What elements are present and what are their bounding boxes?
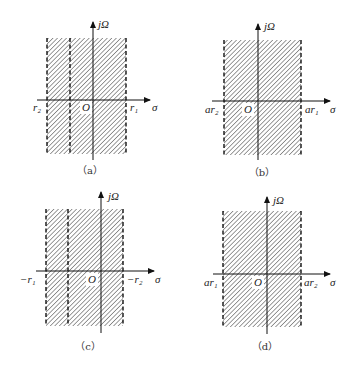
left-boundary-label: ar₁ [204, 276, 218, 288]
panel-d: jΩσOar₁ar₂（d） [204, 194, 336, 352]
panel-caption: （b） [249, 167, 275, 178]
panel-c: jΩσO−r₁−r₂（c） [20, 190, 161, 352]
origin-label: O [82, 101, 90, 113]
panel-caption: （a） [77, 165, 103, 176]
jomega-axis-label: jΩ [96, 18, 109, 30]
panel-caption: （c） [75, 341, 101, 352]
jomega-axis-label: jΩ [106, 190, 119, 202]
jomega-axis-label: jΩ [262, 20, 275, 32]
sigma-axis-label: σ [330, 276, 336, 288]
sigma-axis-label: σ [330, 103, 336, 115]
origin-label: O [88, 273, 96, 285]
jomega-axis-label: jΩ [271, 194, 284, 206]
hatched-region [47, 38, 126, 154]
sigma-axis-label: σ [152, 101, 158, 113]
origin-label: O [254, 276, 262, 288]
left-boundary-label: ar₂ [205, 103, 219, 115]
panel-a: jΩσOr₂r₁（a） [33, 18, 158, 176]
right-boundary-label: ar₂ [304, 276, 318, 288]
right-boundary-label: ar₁ [305, 103, 319, 115]
right-boundary-label: −r₂ [127, 273, 143, 285]
hatched-region [224, 40, 301, 155]
s-plane-figure: jΩσOr₂r₁（a）jΩσOar₂ar₁（b）jΩσO−r₁−r₂（c）jΩσ… [0, 0, 351, 369]
panel-b: jΩσOar₂ar₁（b） [205, 20, 336, 178]
left-boundary-label: r₂ [33, 101, 41, 113]
origin-label: O [244, 103, 252, 115]
sigma-axis-label: σ [155, 273, 161, 285]
hatched-region [46, 209, 123, 326]
hatched-region [223, 211, 301, 327]
left-boundary-label: −r₁ [20, 273, 36, 285]
right-boundary-label: r₁ [130, 101, 138, 113]
panel-caption: （d） [252, 341, 278, 352]
